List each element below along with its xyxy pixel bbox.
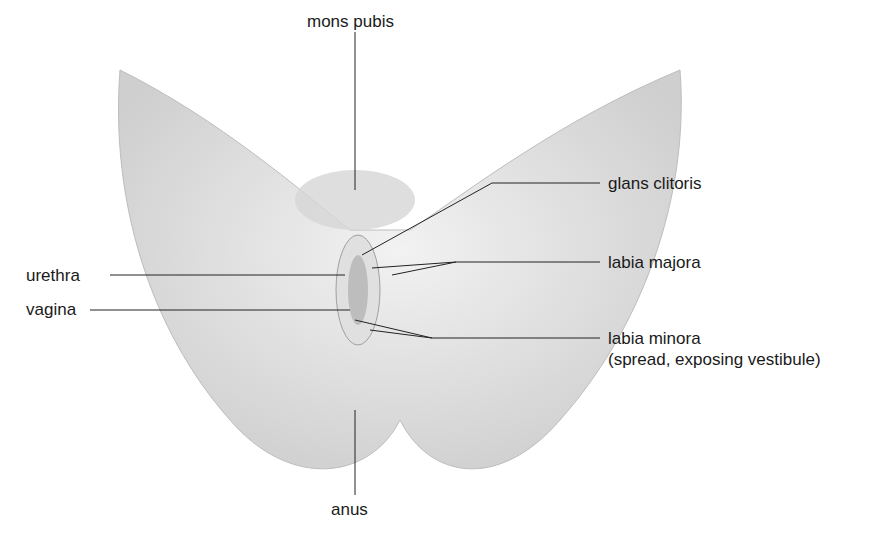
label-right-2: labia majora [608, 253, 701, 272]
label-top: mons pubis [307, 12, 394, 31]
illustration [0, 0, 890, 536]
label-right-3-sub: (spread, exposing vestibule) [608, 350, 821, 369]
central-inner [348, 255, 368, 325]
body-silhouette [118, 70, 681, 469]
label-right-1: glans clitoris [608, 174, 702, 193]
label-bottom: anus [331, 500, 368, 519]
anatomy-diagram: mons pubis anus urethra vagina glans cli… [0, 0, 890, 536]
label-right-3: labia minora [608, 329, 701, 348]
label-left-2: vagina [26, 300, 76, 319]
label-left-1: urethra [26, 266, 80, 285]
